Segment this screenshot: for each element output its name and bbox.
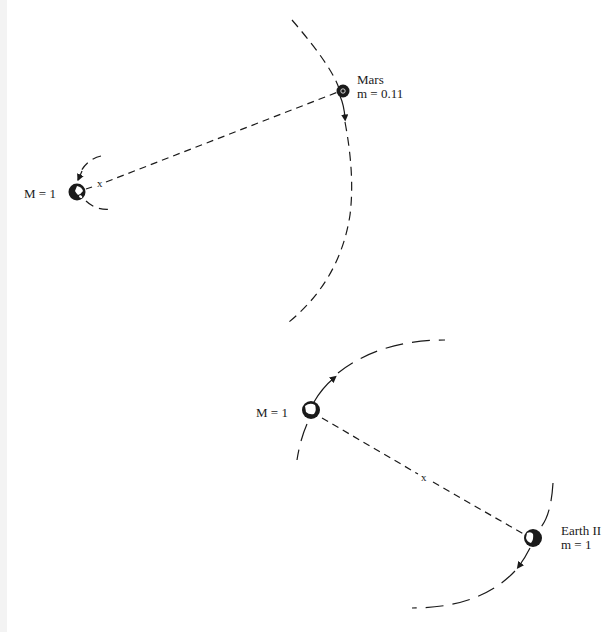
earth2-large-orbit-upper — [541, 483, 553, 527]
earth-small-orbit-lower — [86, 201, 112, 209]
mars-orbit-arrow-segment — [340, 96, 345, 118]
earth-mass-label: M = 1 — [24, 187, 56, 201]
mars-globe-icon — [337, 85, 350, 98]
earth-mars-separation-line — [106, 92, 338, 182]
center-of-mass-marker: x — [97, 178, 103, 189]
mars-mass-label: m = 0.11 — [357, 87, 403, 101]
earth-earth2-separation-line — [433, 482, 527, 536]
earth-orbit-arrow-segment — [314, 378, 334, 402]
earth-large-orbit-lower — [297, 424, 307, 460]
earth-orbit-arrow-segment — [79, 171, 82, 178]
orbit-diagram — [0, 0, 603, 632]
earth2-mass-label: m = 1 — [561, 538, 591, 552]
earth2-globe-icon — [524, 529, 542, 547]
earth2-large-orbit-lower — [412, 571, 515, 608]
earth-mass-label: M = 1 — [256, 406, 288, 420]
earth-globe-icon — [69, 184, 86, 201]
earth-mars-separation-line — [86, 187, 92, 189]
mars-large-orbit — [292, 20, 340, 92]
mars-name-label: Mars — [357, 73, 384, 87]
mars-large-orbit-lower — [289, 122, 352, 322]
earth2-orbit-arrow-segment — [519, 548, 530, 566]
earth-large-orbit-upper — [338, 340, 445, 373]
system-1 — [69, 20, 352, 322]
earth-globe-icon — [302, 401, 320, 419]
earth-earth2-separation-line — [322, 418, 418, 474]
earth2-name-label: Earth II — [561, 524, 601, 538]
center-of-mass-marker: x — [421, 472, 427, 483]
